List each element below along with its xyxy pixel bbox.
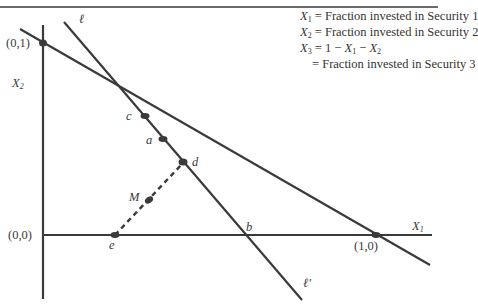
origin-label: (0,0) <box>8 228 32 243</box>
point-c <box>141 113 150 119</box>
point-M <box>144 195 155 205</box>
point-d-label: d <box>192 155 198 170</box>
legend-x3: X3 = 1 − X1 − X2 <box>300 42 478 58</box>
y-axis-label: X2 <box>12 76 24 91</box>
point-d <box>179 159 188 166</box>
legend-x1: X1 = Fraction invested in Security 1 <box>300 10 478 26</box>
point-M-label: M <box>129 190 139 205</box>
x-intercept-label: (1,0) <box>354 239 378 254</box>
point-b-label: b <box>246 220 252 235</box>
point-0-1 <box>39 40 47 47</box>
point-e-label: e <box>109 238 115 253</box>
line-ell-label: ℓ <box>79 12 84 27</box>
legend: X1 = Fraction invested in Security 1 X2 … <box>300 10 478 71</box>
x-axis-label: X1 <box>412 219 424 234</box>
point-a <box>159 136 168 142</box>
line-ell-prime-label: ℓ′ <box>303 276 311 291</box>
legend-x2: X2 = Fraction invested in Security 2 <box>300 26 478 42</box>
y-intercept-label: (0,1) <box>6 36 30 51</box>
point-c-label: c <box>126 109 132 124</box>
legend-x3-continued: = Fraction invested in Security 3 <box>300 58 478 71</box>
point-1-0 <box>372 232 381 238</box>
point-a-label: a <box>146 133 152 148</box>
